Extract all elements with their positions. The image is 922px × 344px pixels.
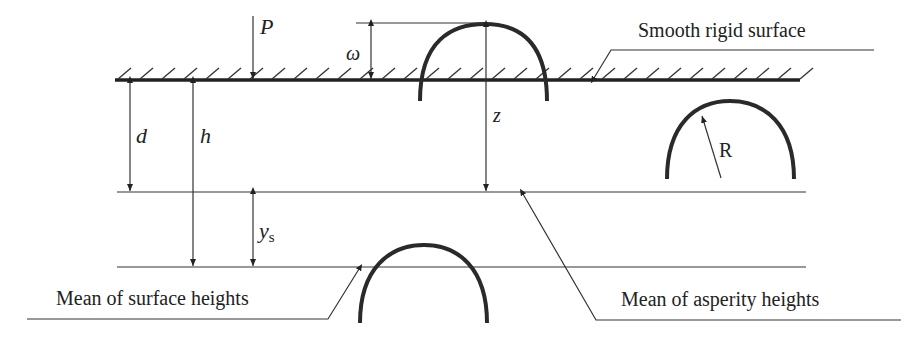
surface-separation-label: h [200, 123, 211, 148]
asperity-height-label: z [492, 104, 501, 126]
asperity-separation-label: d [136, 123, 148, 148]
contacting-asperity [420, 24, 547, 101]
hatching [118, 68, 813, 79]
surface-mean-callout: Mean of surface heights [56, 287, 249, 310]
interference-label: ω [346, 42, 360, 64]
rigid-surface-leader [594, 50, 874, 78]
lower-asperity [360, 245, 487, 323]
diagram-canvas: P ω z d h ys R Smooth rigid surface Mean… [0, 0, 922, 344]
contact-model-diagram: P ω z d h ys R Smooth rigid surface Mean… [0, 0, 922, 344]
rigid-surface [115, 68, 813, 80]
asperity-mean-callout: Mean of asperity heights [621, 288, 819, 311]
rigid-surface-callout: Smooth rigid surface [638, 19, 806, 42]
load-label: P [259, 14, 273, 39]
mean-offset-label: ys [257, 218, 275, 245]
radius-label: R [719, 139, 733, 161]
